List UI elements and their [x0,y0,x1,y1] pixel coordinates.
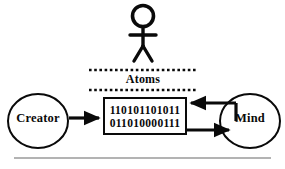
atoms-band-label: Atoms [88,72,198,86]
stick-figure-leg-right-icon [143,46,152,61]
mind-node-label: Mind [220,111,280,125]
stick-figure-leg-left-icon [134,46,143,61]
data-box-row: 011010000111 [106,117,184,130]
diagram-canvas: Creator Mind Atoms 110101101011 01101000… [0,0,285,169]
data-box-row: 110101101011 [106,104,184,117]
stick-figure-head-icon [133,6,154,27]
stick-figure-icon [130,6,156,62]
creator-node-label: Creator [8,111,68,125]
